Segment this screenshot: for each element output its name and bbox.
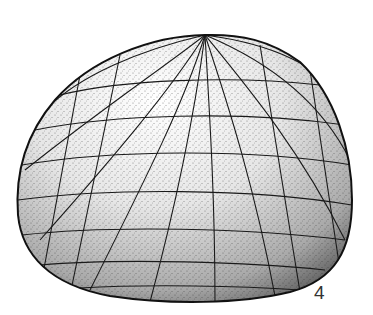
specimen-illustration: [0, 0, 373, 315]
specimen-body: [0, 0, 373, 315]
figure-label: 4: [314, 282, 325, 304]
